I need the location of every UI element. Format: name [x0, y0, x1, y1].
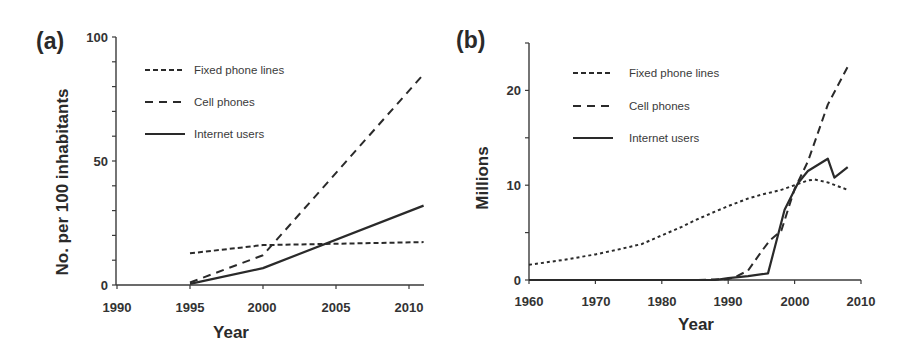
panel-a-ytick-0: 0	[101, 278, 108, 293]
legend-label: Fixed phone lines	[629, 67, 719, 79]
panel-b-axes	[525, 43, 861, 284]
panel-b-legend: Fixed phone lines Cell phones Internet u…	[573, 67, 719, 144]
panel-b-plot-area	[529, 67, 848, 280]
panel-b-x-tick-labels: 1960 1970 1980 1990 2000 2010	[515, 294, 876, 309]
panel-a-legend: Fixed phone lines Cell phones Internet u…	[145, 64, 284, 140]
legend-label: Internet users	[629, 132, 700, 144]
panel-a-ytick-100: 100	[86, 30, 108, 45]
legend-label: Cell phones	[629, 100, 690, 112]
legend-item-cell-phones: Cell phones	[573, 100, 690, 112]
panel-a: (a) No. per 100 inhabitants Year 0 50 10…	[36, 28, 424, 342]
figure: (a) No. per 100 inhabitants Year 0 50 10…	[0, 0, 911, 357]
panel-b-xtick-1970: 1970	[582, 294, 611, 309]
legend-item-internet-users: Internet users	[145, 128, 265, 140]
panel-b-ytick-0: 0	[514, 273, 521, 288]
legend-label: Cell phones	[194, 96, 255, 108]
legend-item-cell-phones: Cell phones	[145, 96, 255, 108]
panel-b-label: (b)	[456, 27, 485, 53]
legend-label: Fixed phone lines	[194, 64, 284, 76]
panel-b-xtick-1990: 1990	[714, 294, 743, 309]
panel-a-x-axis-title: Year	[213, 323, 249, 342]
panel-a-xtick-1990: 1990	[103, 300, 132, 315]
panel-b-x-axis-title: Year	[678, 315, 714, 334]
panel-b-y-tick-labels: 0 10 20	[507, 83, 521, 288]
panel-b-ytick-10: 10	[507, 178, 521, 193]
legend-item-fixed-phone-lines: Fixed phone lines	[145, 64, 284, 76]
legend-item-fixed-phone-lines: Fixed phone lines	[573, 67, 719, 79]
panel-a-x-tick-labels: 1990 1995 2000 2005 2010	[103, 300, 424, 315]
panel-a-xtick-2010: 2010	[395, 300, 424, 315]
panel-a-y-axis-title: No. per 100 inhabitants	[53, 88, 72, 275]
panel-b-xtick-1960: 1960	[515, 294, 544, 309]
panel-b-xtick-2010: 2010	[847, 294, 876, 309]
panel-b-cell-phones-line	[529, 67, 848, 280]
legend-item-internet-users: Internet users	[573, 132, 700, 144]
panel-b-xtick-1980: 1980	[648, 294, 677, 309]
panel-a-ytick-50: 50	[94, 154, 108, 169]
panel-b-y-axis-title: Millions	[473, 146, 492, 209]
panel-a-label: (a)	[36, 28, 64, 54]
legend-label: Internet users	[194, 128, 265, 140]
panel-a-xtick-2005: 2005	[322, 300, 351, 315]
panel-b: (b) Millions Year 0 10 20 1960 1970 1980…	[456, 27, 875, 334]
panel-b-ytick-20: 20	[507, 83, 521, 98]
panel-a-y-tick-labels: 0 50 100	[86, 30, 108, 293]
panel-a-xtick-2000: 2000	[248, 300, 277, 315]
panel-a-internet-users-line	[190, 206, 424, 284]
panel-a-xtick-1995: 1995	[176, 300, 205, 315]
panel-b-xtick-2000: 2000	[781, 294, 810, 309]
panel-b-fixed-phone-lines-line	[529, 180, 848, 265]
